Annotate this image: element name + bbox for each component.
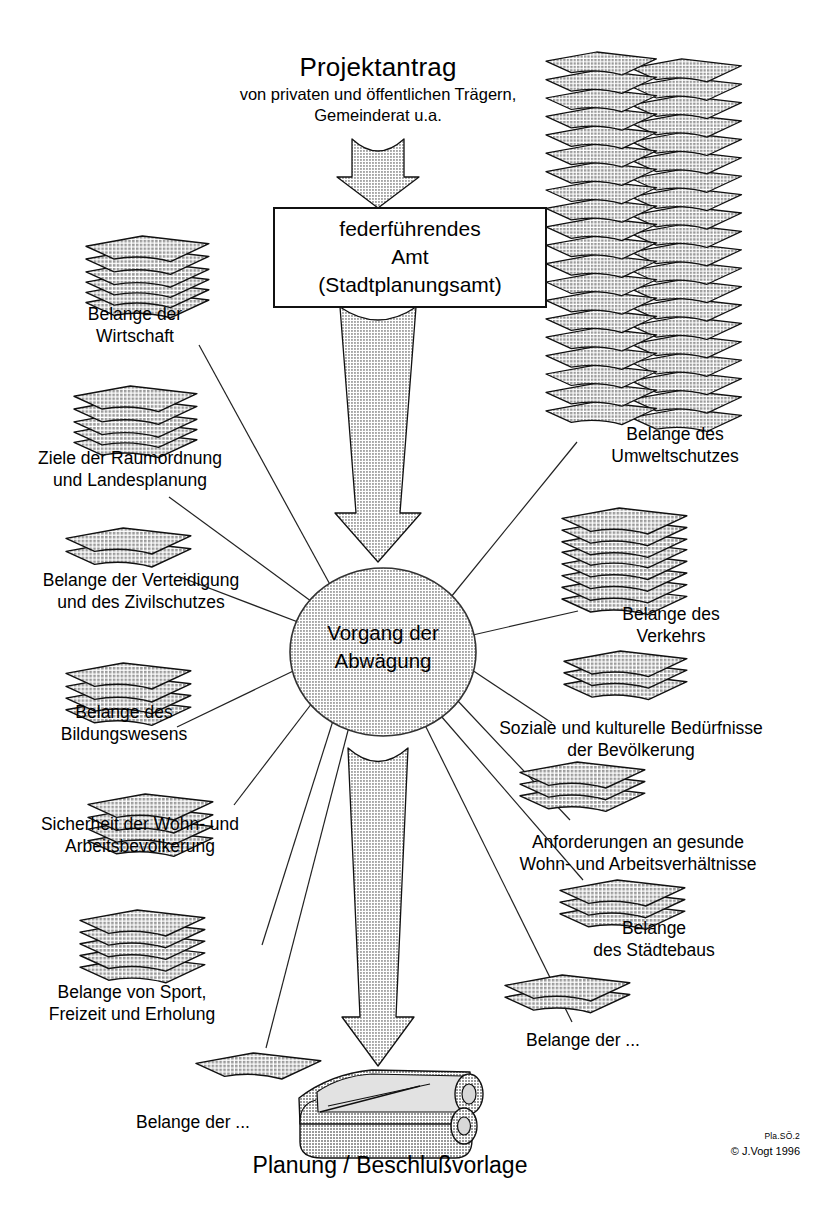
concern-label-verkehr-line2: Verkehrs xyxy=(566,626,776,647)
concern-label-raumordnung-line2: und Landesplanung xyxy=(6,470,254,491)
credit-code: Pla.SÖ.2 xyxy=(620,1130,800,1143)
concern-label-sport-line1: Belange von Sport, xyxy=(8,982,256,1003)
spoke-sport xyxy=(262,708,337,945)
central-node-line1: Vorgang der xyxy=(283,620,483,647)
page-subtitle-line1: von privaten und öffentlichen Trägern, xyxy=(158,85,598,104)
paper-stack-sport xyxy=(80,910,205,983)
central-node-line2: Abwägung xyxy=(283,648,483,675)
page-title: Projektantrag xyxy=(188,52,568,83)
arrow-antrag-to-amt xyxy=(337,139,419,208)
concern-label-soziale-line2: der Bevölkerung xyxy=(446,740,816,761)
concern-label-gesunde-wohn-line2: Wohn- und Arbeitsverhältnisse xyxy=(460,854,816,875)
concern-label-raumordnung-line1: Ziele der Raumordnung xyxy=(6,448,254,469)
paper-stack-raumordnung xyxy=(74,386,197,458)
concern-label-sport-line2: Freizeit und Erholung xyxy=(8,1004,256,1025)
process-box-line1: federführendes xyxy=(276,216,544,243)
concern-label-wirtschaft-line2: Wirtschaft xyxy=(20,326,250,347)
concern-label-wirtschaft-line1: Belange der xyxy=(20,304,250,325)
paper-stack-gesunde-wohn xyxy=(520,762,645,811)
concern-label-sicherheit-line1: Sicherheit der Wohn- und xyxy=(8,814,272,835)
concern-label-staedtebau-line1: Belange xyxy=(546,918,762,939)
outcome-label: Planung / Beschlußvorlage xyxy=(190,1152,590,1179)
spoke-umweltschutz xyxy=(451,442,577,597)
arrow-amt-to-abwaegung xyxy=(335,307,421,562)
concern-label-verteidigung-line2: und des Zivilschutzes xyxy=(0,592,282,613)
page-subtitle-line2: Gemeinderat u.a. xyxy=(158,106,598,125)
credit-block: Pla.SÖ.2 © J.Vogt 1996 xyxy=(620,1130,800,1159)
concern-label-verkehr-line1: Belange des xyxy=(566,604,776,625)
paper-stack-weitere-rechts xyxy=(505,975,630,1013)
diagram-canvas: Projektantrag von privaten und öffentlic… xyxy=(0,0,824,1231)
paper-stack-weitere-links xyxy=(196,1053,321,1079)
concern-label-umweltschutz-line2: Umweltschutzes xyxy=(560,446,790,467)
concern-label-weitere-rechts: Belange der ... xyxy=(478,1030,688,1051)
concern-label-umweltschutz-line1: Belange des xyxy=(560,424,790,445)
spoke-weitere-links xyxy=(266,715,352,1048)
arrow-abwaegung-to-planung xyxy=(342,748,414,1066)
concern-label-staedtebau-line2: des Städtebaus xyxy=(546,940,762,961)
credit-copyright: © J.Vogt 1996 xyxy=(620,1143,800,1160)
rolled-plan-illustration xyxy=(299,1070,483,1158)
concern-label-soziale-line1: Soziale und kulturelle Bedürfnisse xyxy=(446,718,816,739)
concern-label-weitere-links: Belange der ... xyxy=(88,1112,298,1133)
spoke-sicherheit xyxy=(234,690,322,805)
paper-stack-soziale xyxy=(564,651,687,700)
concern-label-sicherheit-line2: Arbeitsbevölkerung xyxy=(8,836,272,857)
process-box-line2: Amt xyxy=(276,244,544,271)
process-box-line3: (Stadtplanungsamt) xyxy=(276,272,544,299)
spoke-soziale xyxy=(469,668,552,723)
concern-label-verteidigung-line1: Belange der Verteidigung xyxy=(0,570,282,591)
paper-stack-verkehr xyxy=(562,508,687,615)
paper-stack-verteidigung xyxy=(66,528,191,567)
concern-label-bildungswesen-line2: Bildungswesens xyxy=(8,724,240,745)
concern-label-gesunde-wohn-line1: Anforderungen an gesunde xyxy=(460,832,816,853)
concern-label-bildungswesen-line1: Belange des xyxy=(8,702,240,723)
